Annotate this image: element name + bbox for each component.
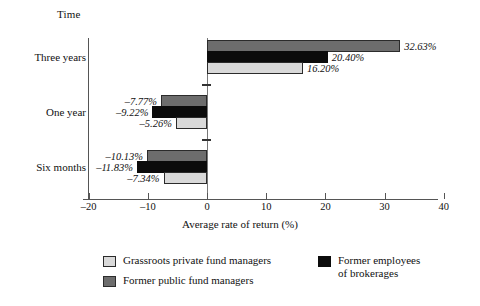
bar-value-label: –7.34% bbox=[127, 173, 159, 184]
bar-chart: Time –20–10010203040 Three yearsOne year… bbox=[0, 0, 480, 306]
bar bbox=[207, 62, 303, 74]
category-separator-tick bbox=[202, 84, 211, 86]
value-axis-tick-label: 10 bbox=[261, 201, 272, 212]
bar-value-label: –5.26% bbox=[140, 118, 172, 129]
legend: Grassroots private fund managers Former … bbox=[0, 248, 480, 304]
legend-swatch-icon bbox=[103, 256, 116, 267]
bar-value-label: 16.20% bbox=[307, 63, 339, 74]
legend-item-label: Former employees of brokerages bbox=[338, 254, 420, 280]
legend-item-grassroots-private-fund-managers: Grassroots private fund managers bbox=[103, 254, 271, 267]
value-axis-tick-label: –10 bbox=[140, 201, 156, 212]
category-axis-title: Time bbox=[57, 8, 81, 20]
bar bbox=[176, 117, 207, 129]
category-label: Six months bbox=[36, 161, 86, 173]
category-label: Three years bbox=[34, 51, 86, 63]
legend-item-label: Grassroots private fund managers bbox=[123, 254, 271, 267]
bar-value-label: –11.83% bbox=[96, 162, 133, 173]
value-axis-line bbox=[83, 199, 438, 200]
bar-value-label: –7.77% bbox=[125, 96, 157, 107]
bar-value-label: –10.13% bbox=[105, 151, 143, 162]
category-label: One year bbox=[46, 106, 86, 118]
value-axis-tick bbox=[385, 193, 386, 199]
category-separator-tick bbox=[202, 139, 211, 141]
bar-value-label: 20.40% bbox=[332, 52, 364, 63]
value-axis-tick bbox=[148, 193, 149, 199]
legend-item-label: Former public fund managers bbox=[123, 274, 253, 287]
value-axis-tick bbox=[325, 193, 326, 199]
legend-swatch-icon bbox=[103, 276, 116, 287]
value-axis-tick-label: 40 bbox=[439, 201, 450, 212]
bar-value-label: –9.22% bbox=[116, 107, 148, 118]
value-axis-tick-label: 30 bbox=[379, 201, 390, 212]
value-axis-tick-label: –20 bbox=[81, 201, 97, 212]
value-axis-tick bbox=[89, 193, 90, 199]
value-axis-tick-label: 20 bbox=[320, 201, 331, 212]
legend-item-former-public-fund-managers: Former public fund managers bbox=[103, 274, 253, 287]
bar bbox=[164, 172, 207, 184]
value-axis-title: Average rate of return (%) bbox=[0, 218, 480, 230]
category-axis-line bbox=[88, 38, 89, 200]
value-axis-tick bbox=[444, 193, 445, 199]
legend-item-former-employees-of-brokerages: Former employees of brokerages bbox=[318, 254, 420, 280]
value-axis-tick bbox=[266, 193, 267, 199]
bar-value-label: 32.63% bbox=[404, 41, 436, 52]
value-axis-tick bbox=[207, 193, 208, 199]
legend-swatch-icon bbox=[318, 256, 331, 267]
value-axis-tick-label: 0 bbox=[204, 201, 209, 212]
